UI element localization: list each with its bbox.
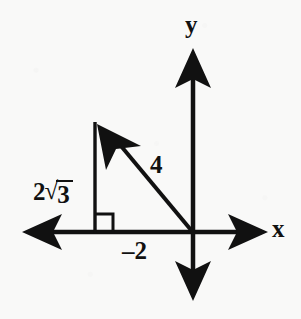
- vertical-leg-length-label: 2 √ 3: [33, 179, 73, 207]
- base-length-label: –2: [122, 238, 147, 263]
- hypotenuse-length-label: 4: [150, 152, 163, 177]
- right-angle-marker: [96, 214, 113, 232]
- right-angle-square: [96, 214, 113, 232]
- radical-expression: 2 √ 3: [33, 179, 73, 207]
- coordinate-plane-figure: y x 4 –2 2 √ 3: [0, 0, 301, 319]
- y-axis: [175, 48, 211, 301]
- radicand: 3: [56, 180, 73, 207]
- radical-sign-icon: √: [45, 178, 59, 203]
- x-axis-label: x: [272, 216, 285, 241]
- y-axis-label: y: [185, 12, 198, 37]
